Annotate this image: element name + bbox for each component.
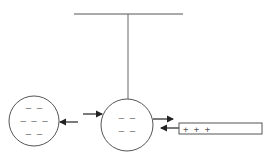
left-sphere-charge-row-2: – – – xyxy=(20,116,48,126)
middle-sphere-charge-row-2: – – xyxy=(119,126,136,136)
charged-rod: + + + xyxy=(179,123,262,134)
left-sphere-charge-row-3: – – xyxy=(26,129,43,139)
middle-sphere: – – – – xyxy=(101,99,153,151)
rod-charge-label: + + + xyxy=(183,124,211,134)
left-sphere-charge-row-1: – – xyxy=(26,103,43,113)
left-sphere: – – – – – – – xyxy=(9,96,59,146)
middle-sphere-charge-row-1: – – xyxy=(119,113,136,123)
electrostatics-diagram: – – – – – – – – – – – + + + xyxy=(0,0,270,158)
